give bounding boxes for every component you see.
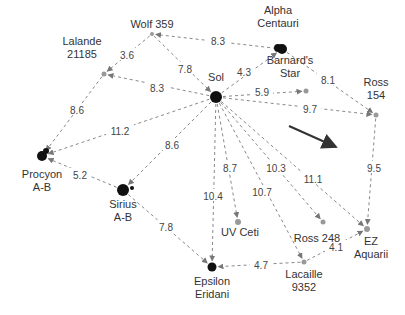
star-ross248 [321,220,326,225]
distance-label: 7.8 [178,64,192,75]
star-label-ezaq: Aquarii [354,248,388,260]
star-sol [210,91,222,103]
distance-label: 7.8 [159,222,173,233]
distance-label: 11.2 [111,126,130,137]
star-label-lalande: Lalande [62,35,101,47]
distance-label: 8.3 [211,36,225,47]
distance-label: 10.4 [203,191,223,202]
star-label-sol: Sol [208,71,224,83]
star-label-procyon: Procyon [22,168,62,180]
edge-sol-ezaq [221,102,363,226]
star-label-sirius: Sirius [109,198,137,210]
distance-label: 8.1 [321,75,335,86]
distance-label: 5.9 [255,87,269,98]
star-procyon-b [43,148,49,154]
star-epsilon [208,263,217,272]
star-label-lacaille: Lacaille [285,268,322,280]
distance-label: 10.7 [252,187,272,198]
star-barnard [304,89,309,94]
star-ross154 [374,113,379,118]
edge-sol-ross154 [223,98,372,115]
star-alpha-companion [274,44,282,52]
star-wolf359 [150,32,154,36]
star-label-uvceti: UV Ceti [221,226,259,238]
distance-label: 5.2 [73,170,87,181]
distance-label: 11.1 [304,174,323,185]
distance-label: 8.7 [223,163,237,174]
star-label-lacaille: 9352 [292,281,316,293]
diagram-canvas: 3.67.88.38.34.35.98.19.78.611.28.65.28.7… [0,0,405,315]
distance-label: 9.5 [367,163,381,174]
star-label-procyon: A-B [33,181,51,193]
distance-label: 8.6 [70,105,84,116]
distance-label: 4.3 [237,67,251,78]
star-label-ross154: 154 [367,89,385,101]
distance-label: 10.3 [266,163,286,174]
distance-label: 3.6 [120,50,134,61]
edge-sol-ross248 [221,102,321,218]
star-sirius [117,184,129,196]
star-lacaille [302,260,307,265]
edge-sol-epsilon [212,104,216,261]
distance-label: 8.3 [150,83,164,94]
star-sirius-b [130,186,134,190]
star-label-alpha: Alpha [264,4,293,16]
star-lalande [102,72,107,77]
star-label-wolf359: Wolf 359 [130,18,173,30]
star-label-barnard: Barnard's [267,54,314,66]
motion-arrow-icon [289,126,336,147]
star-label-ross248: Ross 248 [294,232,340,244]
star-distance-diagram: 3.67.88.38.34.35.98.19.78.611.28.65.28.7… [0,0,405,315]
star-ezaq [364,226,370,232]
distance-label: 4.7 [254,260,268,271]
star-uvceti [235,219,241,225]
star-label-sirius: A-B [114,211,132,223]
star-label-ezaq: EZ [364,235,378,247]
star-labels: SolWolf 359Lalande21185AlphaCentauriBarn… [22,4,389,300]
star-label-ross154: Ross [363,76,389,88]
star-label-epsilon: Eridani [195,288,229,300]
star-label-lalande: 21185 [67,48,97,60]
distance-label: 8.6 [165,140,179,151]
star-label-alpha: Centauri [257,17,299,29]
distance-label: 9.7 [303,104,317,115]
star-label-barnard: Star [280,67,301,79]
star-label-epsilon: Epsilon [194,275,230,287]
